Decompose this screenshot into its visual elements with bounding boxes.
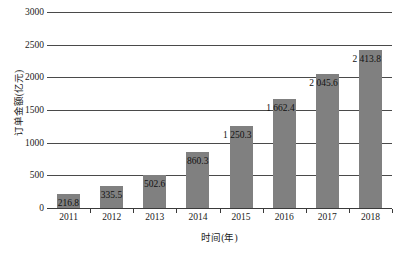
bar-value-label: 335.5 xyxy=(101,190,122,201)
x-axis-tick-labels: 20112012201320142015201620172018 xyxy=(47,211,392,227)
x-tick-label: 2011 xyxy=(47,211,90,223)
y-tick-label: 2500 xyxy=(4,40,44,50)
bar-value-label: 502.6 xyxy=(144,179,165,190)
bar-series: 216.8335.5502.6860.31 250.31 662.42 045.… xyxy=(47,12,392,208)
x-tick-label: 2012 xyxy=(90,211,133,223)
y-tick-label: 2000 xyxy=(4,72,44,82)
x-tick-label: 2017 xyxy=(306,211,349,223)
x-tick-label: 2014 xyxy=(176,211,219,223)
y-axis-tick-labels: 050010001500200025003000 xyxy=(0,0,44,257)
y-tick-label: 1000 xyxy=(4,138,44,148)
x-tick-label: 2016 xyxy=(263,211,306,223)
y-tick-label: 3000 xyxy=(4,7,44,17)
x-tick-label: 2018 xyxy=(349,211,392,223)
bar xyxy=(316,74,339,208)
bar xyxy=(273,99,296,208)
bar xyxy=(359,50,382,208)
plot-area: 216.8335.5502.6860.31 250.31 662.42 045.… xyxy=(47,12,392,208)
bar-value-label: 1 662.4 xyxy=(266,103,295,114)
y-tick-label: 500 xyxy=(4,170,44,180)
x-axis-title: 时间(年) xyxy=(47,230,392,244)
x-tick-label: 2013 xyxy=(133,211,176,223)
bar-value-label: 1 250.3 xyxy=(223,130,252,141)
y-tick-label: 0 xyxy=(4,203,44,213)
y-tick-label: 1500 xyxy=(4,105,44,115)
bar-value-label: 860.3 xyxy=(187,156,208,167)
x-tick-mark xyxy=(392,209,393,213)
bar-value-label: 2 045.6 xyxy=(309,78,338,89)
x-tick-label: 2015 xyxy=(220,211,263,223)
bar-chart: 订单金额(亿元) 050010001500200025003000 216.83… xyxy=(0,0,402,257)
bar-value-label: 2 413.8 xyxy=(352,54,381,65)
